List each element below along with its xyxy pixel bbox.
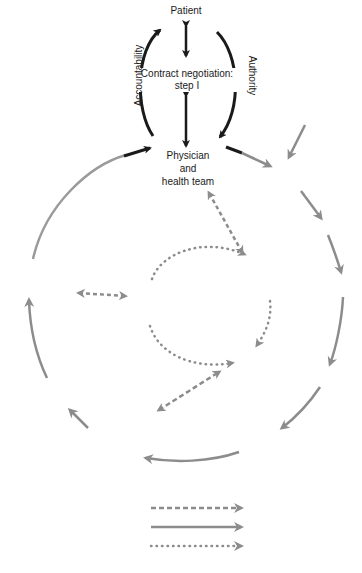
authority-label: Authority xyxy=(247,46,258,106)
outer-cycle-right-segment-5 xyxy=(282,387,320,428)
patient-label: Patient xyxy=(160,5,212,17)
inner-dotted-arc-bottom xyxy=(150,326,232,365)
contract-negotiation-line-2: step I xyxy=(135,80,239,92)
inner-dashed-arrow-left xyxy=(79,293,125,296)
outer-cycle-left-ascending-arc xyxy=(29,300,47,378)
outer-cycle-right-segment-3 xyxy=(328,235,341,272)
inner-dotted-arc-right xyxy=(257,301,270,345)
inner-dotted-arc-top xyxy=(152,247,244,279)
physician-label: Physician xyxy=(146,149,230,162)
outer-cycle-right-segment-4 xyxy=(330,297,343,364)
inner-dashed-arrow-physician xyxy=(209,193,242,252)
contract-negotiation-label: Contract negotiation: step I xyxy=(135,68,239,92)
outer-cycle-right-segment-1 xyxy=(242,153,270,166)
outer-cycle-bottom-left-arrow xyxy=(70,410,88,428)
legend xyxy=(151,508,241,546)
outer-cycle-incoming-arrow xyxy=(289,125,305,157)
accountability-label: Accountability xyxy=(133,36,144,116)
outer-cycle-bottom-arc xyxy=(146,452,239,461)
outer-cycle-right-segment-2 xyxy=(301,191,321,218)
inner-dashed-arrow-bottom xyxy=(159,372,219,410)
health-team-label: health team xyxy=(146,175,230,188)
physician-health-team-label: Physician and health team xyxy=(146,149,230,188)
and-label: and xyxy=(146,162,230,175)
outer-cycle-left-arc xyxy=(33,155,126,259)
contract-negotiation-line-1: Contract negotiation: xyxy=(135,68,239,80)
